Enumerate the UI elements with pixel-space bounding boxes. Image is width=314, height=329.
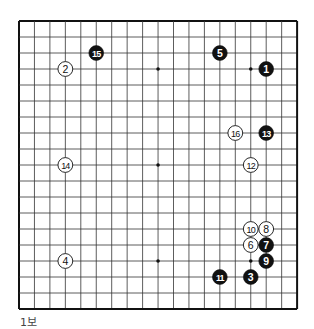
diagram-caption: 1보 [20,313,37,329]
stone-white-move-16: 16 [228,126,243,141]
stone-black-move-11: 11 [212,270,227,285]
move-number: 5 [217,47,223,59]
stone-black-move-9: 9 [259,254,274,269]
stone-black-move-7: 7 [259,238,274,253]
stone-white-move-4: 4 [58,254,73,269]
move-number: 16 [231,129,240,139]
star-point [156,67,160,71]
move-number: 10 [247,225,256,235]
stone-white-move-14: 14 [58,158,73,173]
move-number: 12 [247,161,256,171]
move-number: 2 [62,63,68,75]
move-number: 6 [248,239,254,251]
stone-white-move-12: 12 [243,158,258,173]
star-point [249,259,253,263]
stone-black-move-5: 5 [212,46,227,61]
move-number: 9 [263,255,269,267]
move-number: 15 [92,49,101,59]
move-number: 14 [61,161,70,171]
stone-white-move-2: 2 [58,62,73,77]
stone-white-move-10: 10 [243,222,258,237]
star-point [156,163,160,167]
stone-black-move-13: 13 [259,126,274,141]
go-board: 12345678910111213141516 [0,0,314,329]
stone-black-move-1: 1 [259,62,274,77]
stone-white-move-6: 6 [243,238,258,253]
stone-black-move-15: 15 [89,46,104,61]
move-number: 1 [263,63,269,75]
move-number: 13 [262,129,271,139]
star-point [156,259,160,263]
move-number: 7 [263,239,269,251]
move-number: 4 [62,255,68,267]
move-number: 11 [216,273,225,283]
stone-white-move-8: 8 [259,222,274,237]
move-number: 3 [248,271,254,283]
move-number: 8 [263,223,269,235]
star-point [249,67,253,71]
stone-black-move-3: 3 [243,270,258,285]
